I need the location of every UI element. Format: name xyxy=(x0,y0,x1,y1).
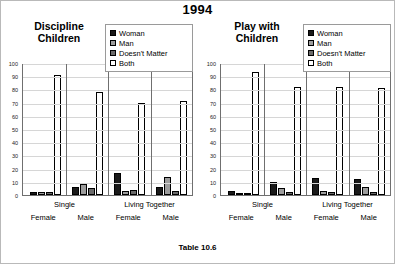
y-axis-tick: 10 xyxy=(210,180,216,186)
y-axis-tick: 80 xyxy=(210,87,216,93)
category-label-secondary: Male xyxy=(65,213,108,222)
y-axis-tick: 50 xyxy=(12,127,18,133)
bar xyxy=(236,193,243,195)
page-title: 1994 xyxy=(0,2,395,17)
bar xyxy=(46,192,53,195)
y-axis-tick: 60 xyxy=(210,114,216,120)
group-separator xyxy=(306,64,307,196)
bar xyxy=(80,184,87,195)
y-axis-tick: 90 xyxy=(210,74,216,80)
y-axis-tick: 30 xyxy=(12,153,18,159)
bar xyxy=(328,192,335,195)
plot-canvas xyxy=(22,64,192,196)
bar xyxy=(228,191,235,195)
bar xyxy=(244,193,251,195)
bar xyxy=(370,192,377,195)
legend-label: Woman xyxy=(317,29,343,38)
y-axis-tick: 80 xyxy=(12,87,18,93)
legend-label: Both xyxy=(317,59,332,68)
bar xyxy=(180,101,187,195)
y-axis-tick: 70 xyxy=(210,101,216,107)
legend-label: Doesn't Matter xyxy=(119,49,168,58)
legend-item: Doesn't Matter xyxy=(110,48,189,58)
chart-panel-play-with-children: Play with Children Woman Man Doesn't Mat… xyxy=(200,18,395,250)
legend-key-man xyxy=(110,40,116,46)
y-axis-tick: 10 xyxy=(12,180,18,186)
bar xyxy=(312,178,319,195)
bar xyxy=(30,192,37,195)
group-separator xyxy=(264,64,265,196)
legend-key-doesnt-matter xyxy=(308,50,314,56)
chart-title: Discipline Children xyxy=(16,20,102,44)
category-label-secondary: Female xyxy=(220,213,263,222)
category-label-secondary: Female xyxy=(107,213,150,222)
y-axis-tick: 90 xyxy=(12,74,18,80)
table-caption: Table 10.6 xyxy=(0,243,395,252)
bar xyxy=(164,177,171,195)
legend-label: Both xyxy=(119,59,134,68)
y-axis-tick: 100 xyxy=(9,61,18,67)
bar xyxy=(54,75,61,195)
legend-label: Doesn't Matter xyxy=(317,49,366,58)
y-axis-tick: 40 xyxy=(12,140,18,146)
plot-area: 1009080706050403020100 xyxy=(22,64,192,210)
bar xyxy=(130,190,137,195)
legend-item: Woman xyxy=(110,28,189,38)
y-axis-tick: 20 xyxy=(12,167,18,173)
bar xyxy=(122,191,129,195)
bar xyxy=(156,187,163,195)
bar xyxy=(172,191,179,195)
y-axis-tick: 70 xyxy=(12,101,18,107)
y-axis: 1009080706050403020100 xyxy=(200,64,218,196)
legend-key-doesnt-matter xyxy=(110,50,116,56)
legend-key-woman xyxy=(110,30,116,36)
legend-label: Man xyxy=(317,39,332,48)
category-label-secondary: Male xyxy=(348,213,391,222)
legend-key-man xyxy=(308,40,314,46)
category-label-secondary: Female xyxy=(22,213,65,222)
category-label-primary: Living Together xyxy=(305,200,390,209)
category-label-secondary: Female xyxy=(305,213,348,222)
bar xyxy=(38,192,45,195)
category-label-secondary: Male xyxy=(150,213,193,222)
y-axis-tick: 20 xyxy=(210,167,216,173)
y-axis-tick: 60 xyxy=(12,114,18,120)
legend-item: Woman xyxy=(308,28,387,38)
group-separator xyxy=(66,64,67,196)
legend-item: Doesn't Matter xyxy=(308,48,387,58)
legend-key-both xyxy=(308,60,314,66)
plot-area: 1009080706050403020100 xyxy=(220,64,390,210)
legend-label: Man xyxy=(119,39,134,48)
y-axis: 1009080706050403020100 xyxy=(2,64,20,196)
y-axis-tick: 0 xyxy=(213,193,216,199)
bar xyxy=(354,179,361,195)
bar xyxy=(320,191,327,195)
legend-label: Woman xyxy=(119,29,145,38)
bar xyxy=(88,188,95,195)
y-axis-tick: 0 xyxy=(15,193,18,199)
chart-legend: Woman Man Doesn't Matter Both xyxy=(303,24,391,72)
category-label-primary: Single xyxy=(220,200,305,209)
category-label-secondary: Male xyxy=(263,213,306,222)
y-axis-tick: 30 xyxy=(210,153,216,159)
chart-title: Play with Children xyxy=(214,20,300,44)
group-separator xyxy=(151,64,152,196)
chart-panel-discipline-children: Discipline Children Woman Man Doesn't Ma… xyxy=(2,18,197,250)
bar xyxy=(286,192,293,195)
y-axis-tick: 100 xyxy=(207,61,216,67)
legend-item: Both xyxy=(110,58,189,68)
legend-item: Man xyxy=(308,38,387,48)
group-separator xyxy=(108,64,109,196)
bar xyxy=(278,188,285,195)
legend-item: Both xyxy=(308,58,387,68)
group-separator xyxy=(349,64,350,196)
group-separator xyxy=(390,64,391,196)
bar xyxy=(72,187,79,195)
legend-key-woman xyxy=(308,30,314,36)
bar xyxy=(362,187,369,195)
category-label-primary: Living Together xyxy=(107,200,192,209)
group-separator xyxy=(192,64,193,196)
y-axis-tick: 50 xyxy=(210,127,216,133)
legend-key-both xyxy=(110,60,116,66)
legend-item: Man xyxy=(110,38,189,48)
